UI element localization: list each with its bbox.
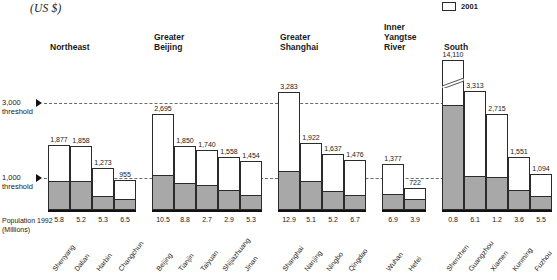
city-label-jinan: Jinan	[243, 255, 260, 273]
city-label-qingdao: Qingdao	[347, 247, 370, 273]
population-value-hefei: 3.9	[404, 216, 426, 224]
city-label-changchun: Changchun	[117, 240, 145, 273]
threshold-marker-1000	[36, 174, 42, 182]
bar-segment-1992-tianjin	[175, 183, 195, 209]
legend-swatch-2001	[442, 2, 456, 11]
city-label-shanghai: Shanghai	[281, 245, 306, 273]
group-header-inner-yangtse-river: Inner Yangtse River	[384, 22, 417, 52]
population-value-xiamen: 1.2	[486, 216, 508, 224]
value-label-jinan: 1,454	[234, 152, 268, 160]
bar-changchun[interactable]	[114, 180, 136, 210]
axis-segment	[278, 210, 366, 212]
bar-segment-1992-guangzhou	[465, 176, 485, 209]
bar-shenyang[interactable]	[48, 145, 70, 210]
population-value-taiyuan: 2.7	[196, 216, 218, 224]
value-label-xiamen: 2,715	[480, 105, 514, 113]
bar-segment-1992-dalian	[71, 181, 91, 209]
bar-ningbo[interactable]	[322, 154, 344, 210]
bar-tianjin[interactable]	[174, 146, 196, 210]
bar-segment-1992-hefei	[405, 199, 425, 209]
value-label-shenzhen: 14,110	[436, 51, 470, 59]
population-value-wuhan: 6.9	[382, 216, 404, 224]
population-value-jinan: 5.3	[240, 216, 262, 224]
value-label-nanjing: 1,922	[294, 134, 328, 142]
city-label-wuhan: Wuhan	[385, 251, 405, 273]
bar-hefei[interactable]	[404, 188, 426, 210]
population-value-qingdao: 6.7	[344, 216, 366, 224]
city-label-kunming: Kunming	[511, 246, 534, 273]
bar-shanghai[interactable]	[278, 92, 300, 210]
bar-segment-1992-shanghai	[279, 171, 299, 209]
population-value-nanjing: 5.1	[300, 216, 322, 224]
city-label-xiamen: Xiamen	[489, 249, 510, 273]
group-header-greater-beijing: Greater Beijing	[154, 32, 184, 52]
value-label-qingdao: 1,476	[338, 151, 372, 159]
bar-segment-1992-qingdao	[345, 195, 365, 209]
value-label-beijing: 2,695	[146, 105, 180, 113]
value-label-kunming: 1,551	[502, 148, 536, 156]
value-label-changchun: 955	[108, 171, 142, 179]
bar-segment-1992-shijiazhuang	[219, 190, 239, 209]
axis-segment	[48, 210, 136, 212]
city-label-nanjing: Nanjing	[303, 249, 324, 273]
bar-segment-1992-harbin	[93, 196, 113, 209]
group-header-northeast: Northeast	[50, 42, 90, 52]
value-label-shanghai: 3,283	[272, 83, 306, 91]
population-value-kunming: 3.6	[508, 216, 530, 224]
bar-nanjing[interactable]	[300, 143, 322, 210]
population-value-shijiazhuang: 2.9	[218, 216, 240, 224]
bar-jinan[interactable]	[240, 161, 262, 210]
population-value-harbin: 5.3	[92, 216, 114, 224]
threshold-label-1000: 1,000 threshold	[2, 173, 36, 191]
bar-taiyuan[interactable]	[196, 150, 218, 210]
population-value-beijing: 10.5	[152, 216, 174, 224]
value-label-wuhan: 1,377	[376, 155, 410, 163]
bar-xiamen[interactable]	[486, 114, 508, 210]
value-label-dalian: 1,858	[64, 137, 98, 145]
bar-segment-1992-shenyang	[49, 181, 69, 209]
population-value-tianjin: 8.8	[174, 216, 196, 224]
bar-segment-1992-xiamen	[487, 177, 507, 209]
gridline-3000	[44, 103, 484, 104]
value-label-guangzhou: 3,313	[458, 82, 492, 90]
threshold-label-3000: 3,000 threshold	[2, 98, 36, 116]
city-label-ningbo: Ningbo	[325, 251, 345, 273]
value-label-hefei: 722	[398, 179, 432, 187]
bar-segment-1992-changchun	[115, 199, 135, 209]
bar-segment-1992-kunming	[509, 190, 529, 209]
population-value-fuzhou: 5.5	[530, 216, 552, 224]
bar-segment-1992-wuhan	[383, 194, 403, 209]
city-label-beijing: Beijing	[155, 251, 174, 272]
city-label-taiyuan: Taiyuan	[199, 249, 220, 273]
axis-segment	[442, 210, 552, 212]
value-label-harbin: 1,273	[86, 159, 120, 167]
bar-qingdao[interactable]	[344, 160, 366, 210]
bar-shijiazhuang[interactable]	[218, 157, 240, 210]
bar-segment-1992-nanjing	[301, 181, 321, 209]
city-label-fuzhou: Fuzhou	[533, 250, 554, 273]
axis-segment	[152, 210, 262, 212]
population-value-changchun: 6.5	[114, 216, 136, 224]
bar-dalian[interactable]	[70, 146, 92, 210]
group-header-greater-shanghai: Greater Shanghai	[280, 32, 318, 52]
legend-label-2001: 2001	[461, 2, 478, 11]
city-label-tianjin: Tianjin	[177, 252, 196, 273]
bar-segment-1992-jinan	[241, 195, 261, 209]
axis-segment	[382, 210, 426, 212]
bar-beijing[interactable]	[152, 114, 174, 210]
bar-segment-1992-fuzhou	[531, 196, 551, 209]
legend: 2001	[442, 2, 478, 11]
population-value-dalian: 5.2	[70, 216, 92, 224]
units-caption: (US $)	[30, 2, 62, 14]
threshold-marker-3000	[36, 99, 42, 107]
bar-segment-1992-ningbo	[323, 191, 343, 209]
population-value-shanghai: 12.9	[278, 216, 300, 224]
bar-segment-1992-shenzhen	[443, 105, 463, 209]
bar-segment-1992-taiyuan	[197, 185, 217, 209]
value-label-fuzhou: 1,094	[524, 165, 557, 173]
city-label-harbin: Harbin	[95, 252, 114, 273]
bar-segment-1992-beijing	[153, 175, 173, 209]
city-label-dalian: Dalian	[73, 252, 92, 273]
bar-fuzhou[interactable]	[530, 174, 552, 210]
